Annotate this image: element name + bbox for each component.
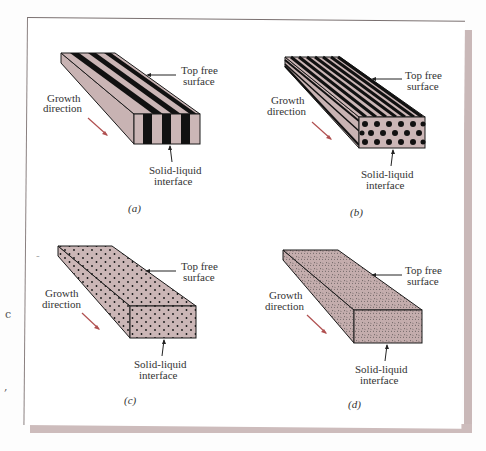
panel-b: Top free surface Growth direction Solid-… [267, 57, 442, 219]
growth-direction-label: direction [265, 300, 305, 312]
top-surface-label: surface [407, 80, 439, 92]
panel-caption: (a) [128, 202, 141, 215]
top-surface-label: surface [183, 75, 215, 87]
interface-label: interface [360, 374, 399, 386]
panel-a: Top free surface Growth direction Solid-… [43, 53, 218, 215]
panel-c: Top free surface Growth direction Solid-… [42, 246, 218, 407]
figure-canvas: Top free surface Growth direction Solid-… [0, 0, 486, 451]
interface-label: interface [154, 175, 193, 187]
panel-caption: (c) [124, 394, 137, 407]
panel-caption: (b) [350, 206, 363, 219]
growth-direction-label: direction [42, 298, 82, 310]
top-surface-label: surface [183, 271, 215, 283]
interface-label: interface [366, 179, 405, 191]
growth-direction-label: direction [267, 105, 307, 117]
interface-label: interface [139, 369, 178, 381]
panel-caption: (d) [348, 398, 361, 411]
panel-d: Top free surface Growth direction Solid-… [265, 250, 442, 411]
top-surface-label: surface [407, 275, 439, 287]
growth-direction-label: direction [43, 102, 83, 114]
